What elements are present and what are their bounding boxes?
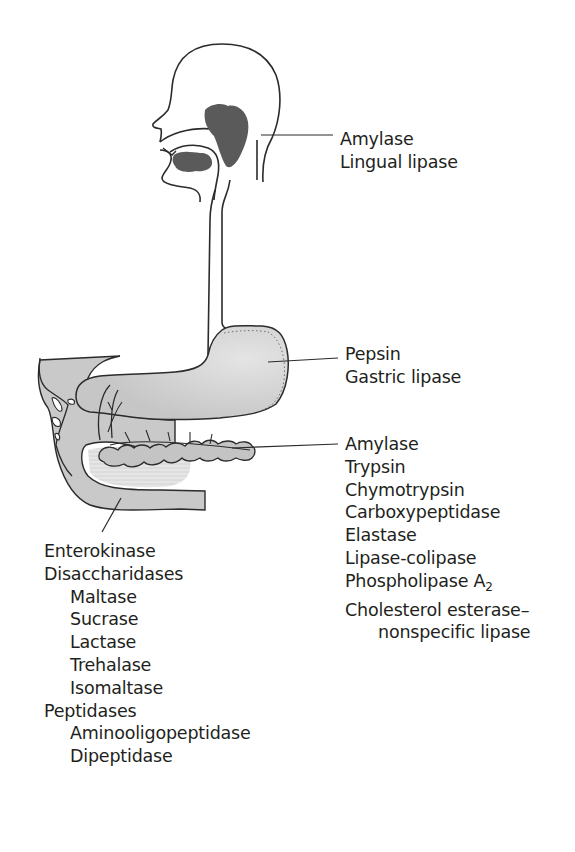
label-gastric-lipase: Gastric lipase	[345, 366, 461, 389]
label-pepsin: Pepsin	[345, 343, 461, 366]
salivary-gland	[205, 104, 249, 167]
label-amylase-pancreatic: Amylase	[345, 433, 530, 456]
label-dipeptidase: Dipeptidase	[44, 745, 251, 768]
phospholipase-text: Phospholipase A	[345, 571, 485, 591]
label-carboxypeptidase: Carboxypeptidase	[345, 501, 530, 524]
label-cholesterol-esterase: Cholesterol esterase–	[345, 599, 530, 622]
label-maltase: Maltase	[44, 586, 251, 609]
phospholipase-subscript: 2	[485, 580, 492, 594]
label-sucrase: Sucrase	[44, 608, 251, 631]
label-enterokinase: Enterokinase	[44, 540, 251, 563]
pancreas-enzyme-labels: Amylase Trypsin Chymotrypsin Carboxypept…	[345, 433, 530, 644]
mouth-enzyme-labels: Amylase Lingual lipase	[340, 128, 458, 174]
label-trypsin: Trypsin	[345, 456, 530, 479]
label-chymotrypsin: Chymotrypsin	[345, 479, 530, 502]
tongue-gland	[173, 152, 213, 172]
label-isomaltase: Isomaltase	[44, 677, 251, 700]
label-peptidases: Peptidases	[44, 700, 251, 723]
label-lactase: Lactase	[44, 631, 251, 654]
label-phospholipase-a2: Phospholipase A2	[345, 570, 530, 599]
label-amylase-saliva: Amylase	[340, 128, 458, 151]
label-elastase: Elastase	[345, 524, 530, 547]
label-trehalase: Trehalase	[44, 654, 251, 677]
label-nonspecific-lipase: nonspecific lipase	[345, 621, 530, 644]
stomach-enzyme-labels: Pepsin Gastric lipase	[345, 343, 461, 389]
stomach	[76, 326, 288, 420]
label-lipase-colipase: Lipase-colipase	[345, 547, 530, 570]
label-disaccharidases: Disaccharidases	[44, 563, 251, 586]
intestine-enzyme-labels: Enterokinase Disaccharidases Maltase Suc…	[44, 540, 251, 768]
label-lingual-lipase: Lingual lipase	[340, 151, 458, 174]
label-aminooligopeptidase: Aminooligopeptidase	[44, 722, 251, 745]
